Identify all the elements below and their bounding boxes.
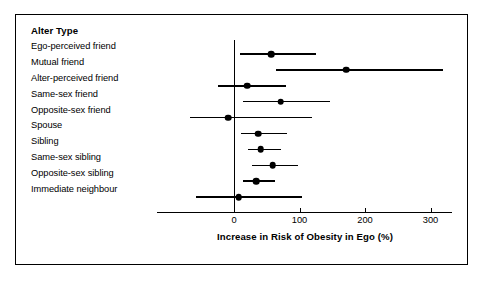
alter-type-label-column: Alter Type Ego-perceived friendMutual fr… xyxy=(31,22,196,198)
category-label-list: Ego-perceived friendMutual friendAlter-p… xyxy=(31,39,196,198)
category-label: Sibling xyxy=(31,134,196,150)
category-label: Same-sex sibling xyxy=(31,150,196,166)
category-label: Mutual friend xyxy=(31,55,196,71)
column-header-alter-type: Alter Type xyxy=(31,22,196,39)
category-label: Ego-perceived friend xyxy=(31,39,196,55)
category-label: Opposite-sex friend xyxy=(31,103,196,119)
category-label: Alter-perceived friend xyxy=(31,71,196,87)
category-label: Same-sex friend xyxy=(31,87,196,103)
category-label: Spouse xyxy=(31,118,196,134)
category-label: Opposite-sex sibling xyxy=(31,166,196,182)
forest-plot-figure: Alter Type Ego-perceived friendMutual fr… xyxy=(0,0,484,283)
category-label: Immediate neighbour xyxy=(31,182,196,198)
